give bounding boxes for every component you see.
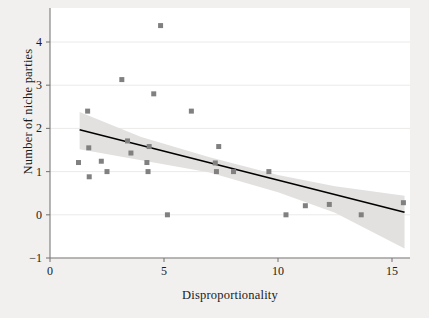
svg-text:0: 0	[36, 208, 42, 222]
axis-tick-labels: −101234051015	[29, 35, 398, 278]
svg-text:15: 15	[386, 264, 398, 278]
x-axis-label: Disproportionality	[50, 288, 410, 303]
svg-text:2: 2	[36, 121, 42, 135]
svg-text:5: 5	[161, 264, 167, 278]
data-points	[76, 23, 406, 217]
svg-text:0: 0	[47, 264, 53, 278]
svg-text:1: 1	[36, 165, 42, 179]
chart-canvas: −101234051015	[0, 0, 429, 318]
svg-text:10: 10	[272, 264, 284, 278]
chart-figure: −101234051015 Number of niche parties Di…	[0, 0, 429, 318]
y-axis-label: Number of niche parties	[21, 0, 36, 232]
svg-text:−1: −1	[29, 251, 42, 265]
svg-text:3: 3	[36, 78, 42, 92]
confidence-band	[80, 112, 405, 249]
svg-text:4: 4	[36, 35, 42, 49]
